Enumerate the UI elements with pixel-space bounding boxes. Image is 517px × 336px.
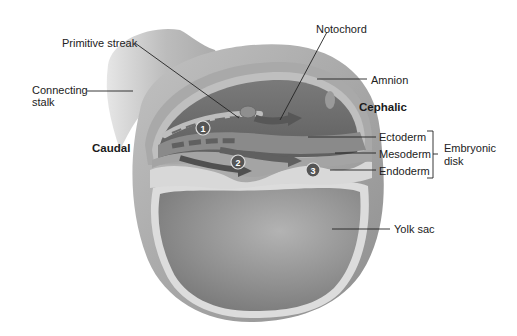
label-caudal: Caudal (92, 142, 130, 154)
label-mesoderm: Mesoderm (379, 148, 431, 160)
label-endoderm: Endoderm (379, 165, 430, 177)
label-cephalic: Cephalic (359, 101, 407, 113)
step-marker-3: 3 (306, 163, 320, 177)
label-notochord: Notochord (316, 23, 367, 35)
primitive-node (240, 106, 256, 118)
step-marker-1: 1 (196, 121, 210, 135)
label-connecting-stalk-line1: Connecting (32, 84, 88, 96)
diagram-illustration: 1 2 3 (0, 0, 517, 336)
label-embryonic-disk-line2: disk (444, 155, 464, 167)
svg-text:1: 1 (200, 124, 205, 134)
notochord-process (255, 118, 292, 121)
label-amnion: Amnion (371, 74, 408, 86)
label-yolk-sac: Yolk sac (394, 223, 435, 235)
gastrulation-diagram: 1 2 3 Primitive streak Notochord Connect… (0, 0, 517, 336)
step-marker-2: 2 (231, 155, 245, 169)
svg-text:3: 3 (310, 166, 315, 176)
svg-text:2: 2 (235, 158, 240, 168)
label-primitive-streak: Primitive streak (62, 37, 137, 49)
label-ectoderm: Ectoderm (379, 131, 426, 143)
label-connecting-stalk-line2: stalk (32, 96, 55, 108)
label-embryonic-disk-line1: Embryonic (444, 142, 496, 154)
